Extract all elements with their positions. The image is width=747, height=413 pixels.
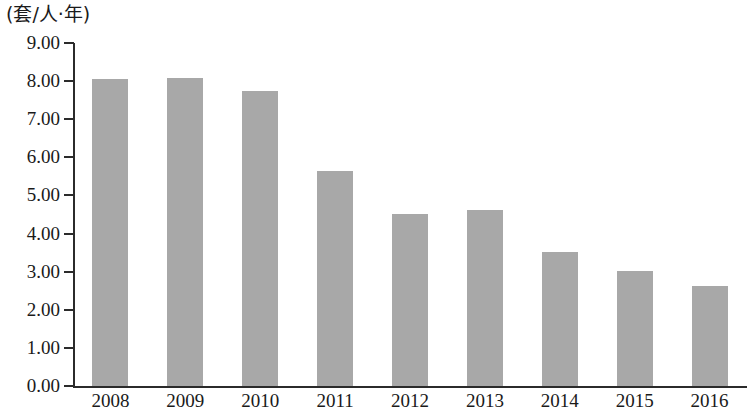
bars-container	[73, 43, 747, 386]
y-axis-tick-label: 5.00	[2, 185, 60, 204]
x-axis-tick-label: 2009	[148, 390, 223, 412]
y-axis-tick-label: 6.00	[2, 147, 60, 166]
x-axis-tick-label: 2016	[672, 390, 747, 412]
bar	[392, 214, 428, 386]
x-axis-tick-label: 2008	[73, 390, 148, 412]
bar	[692, 286, 728, 386]
bar	[542, 252, 578, 386]
bar	[167, 78, 203, 386]
y-axis-tick-label: 4.00	[2, 224, 60, 243]
y-axis-tick-label: 3.00	[2, 262, 60, 281]
y-axis-tick-labels: 0.001.002.003.004.005.006.007.008.009.00	[0, 0, 60, 413]
x-axis-tick-label: 2014	[522, 390, 597, 412]
bar	[617, 271, 653, 386]
bar-chart: (套/人·年) 0.001.002.003.004.005.006.007.00…	[0, 0, 747, 413]
x-axis-line	[73, 386, 747, 388]
y-axis-tick-label: 2.00	[2, 300, 60, 319]
x-axis-tick-label: 2013	[447, 390, 522, 412]
x-axis-tick-label: 2015	[597, 390, 672, 412]
x-axis-tick-label: 2012	[373, 390, 448, 412]
y-axis-tick-label: 7.00	[2, 109, 60, 128]
bar	[317, 171, 353, 386]
x-axis-tick-labels: 200820092010201120122013201420152016	[73, 390, 747, 413]
bar	[242, 91, 278, 386]
x-axis-tick-label: 2010	[223, 390, 298, 412]
y-axis-tick-label: 0.00	[2, 376, 60, 395]
x-axis-tick-label: 2011	[298, 390, 373, 412]
y-axis-tick-label: 1.00	[2, 338, 60, 357]
bar	[92, 79, 128, 386]
y-axis-tick-label: 9.00	[2, 33, 60, 52]
bar	[467, 210, 503, 386]
y-axis-tick-label: 8.00	[2, 71, 60, 90]
